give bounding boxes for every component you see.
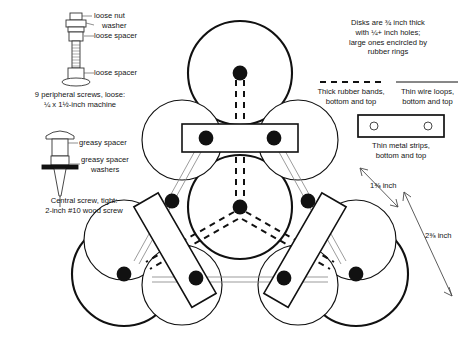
disk-note-line2: with ¼+ inch holes; xyxy=(318,28,458,38)
bolt-spacer-upper xyxy=(69,32,83,41)
legend-metal-strips-label: Thin metal strips, bottom and top xyxy=(346,141,456,161)
bolt-washer xyxy=(66,20,86,27)
diagram-canvas: loose nut washer loose spacer loose spac… xyxy=(0,0,473,337)
callout-loose-spacer-upper: loose spacer xyxy=(94,31,137,41)
legend-strip-hole-left xyxy=(370,122,378,130)
disk-note-line3: large ones encircled by xyxy=(318,38,458,48)
callout-greasy-spacer: greasy spacer xyxy=(79,138,127,148)
dimension-small-label: 1⅜ inch xyxy=(370,181,397,191)
screw-dot-top xyxy=(233,66,248,81)
central-screw-caption: Central screw, tight: 2-inch #10 wood sc… xyxy=(0,196,168,216)
dimension-large-label: 2⅜ inch xyxy=(425,231,452,241)
legend-wire-loops-line2: bottom and top xyxy=(382,97,473,107)
callout-washer: washer xyxy=(102,21,126,31)
bolt-nut xyxy=(70,13,82,20)
disk-note-line4: rubber rings xyxy=(318,47,458,57)
screw-dot-lower-left xyxy=(117,267,132,282)
peripheral-screw-caption-line1: 9 peripheral screws, loose: xyxy=(0,90,160,100)
peripheral-screw-caption: 9 peripheral screws, loose: ¼ x 1½-inch … xyxy=(0,90,160,110)
screw-dot-strip-left-lower xyxy=(189,271,204,286)
screw-dot-strip-right-lower xyxy=(277,271,292,286)
callout-greasy-washers-line2: washers xyxy=(81,165,129,175)
legend-metal-strips-line1: Thin metal strips, xyxy=(346,141,456,151)
dimension-large-arrowhead-a xyxy=(403,192,411,201)
callout-greasy-washers-line1: greasy spacer xyxy=(81,155,129,165)
screw-dot-mid-right xyxy=(301,194,316,209)
bolt-base-disk xyxy=(62,78,90,86)
screw-dot-upper-left xyxy=(199,131,214,146)
screw-dot-lower-right xyxy=(349,267,364,282)
callout-loose-nut: loose nut xyxy=(94,11,125,21)
legend-strip-hole-right xyxy=(424,122,432,130)
screw-taper xyxy=(54,169,66,196)
legend-wire-loops-line1: Thin wire loops, xyxy=(382,87,473,97)
screw-head xyxy=(46,131,74,139)
screw-collar xyxy=(51,156,69,165)
legend-metal-strips-line2: bottom and top xyxy=(346,151,456,161)
central-screw-caption-line1: Central screw, tight: xyxy=(0,196,168,206)
disk-note: Disks are ¾ inch thick with ¼+ inch hole… xyxy=(318,18,458,57)
peripheral-bolt-drawing xyxy=(62,13,90,86)
callout-greasy-spacer-washers: greasy spacer washers xyxy=(81,155,129,174)
screw-greasy-spacer xyxy=(52,139,68,156)
dimension-large-line xyxy=(404,192,452,296)
screw-washer-plate xyxy=(42,165,78,169)
callout-loose-spacer-lower: loose spacer xyxy=(94,68,137,78)
central-screw-caption-line2: 2-inch #10 wood screw xyxy=(0,206,168,216)
peripheral-screw-caption-line2: ¼ x 1½-inch machine xyxy=(0,100,160,110)
legend-wire-loops-label: Thin wire loops, bottom and top xyxy=(382,87,473,107)
disk-note-line1: Disks are ¾ inch thick xyxy=(318,18,458,28)
screw-dot-center xyxy=(233,200,248,215)
bolt-collar xyxy=(68,27,84,32)
screw-dot-upper-right xyxy=(267,131,282,146)
leader-washer xyxy=(86,23,94,25)
